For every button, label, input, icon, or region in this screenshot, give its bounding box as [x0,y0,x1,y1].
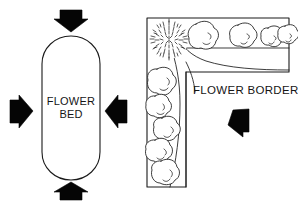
top-row-shrub [188,21,218,49]
flower-bed-label-line2: BED [59,108,82,120]
arrow-right-icon [105,95,127,128]
top-row-shrub [230,23,257,47]
left-column-shrub [147,67,176,95]
flower-bed-label-line1: FLOWER [47,95,95,107]
flower-border-label: FLOWER BORDER [193,84,298,96]
flower-border-panel: FLOWER BORDER [145,18,298,187]
arrow-bottom-icon [54,182,88,200]
arrow-left-icon [10,95,33,128]
left-column-shrub [153,116,180,141]
diagram-canvas: FLOWER BED [0,0,298,205]
left-column-shrub [146,94,172,118]
left-column-shrub [151,159,179,184]
flower-bed-panel: FLOWER BED [10,10,127,200]
arrow-top-icon [54,10,88,32]
garden-diagram-svg: FLOWER BED [0,0,298,205]
top-row-shrub [278,25,298,44]
arrow-border-icon [228,109,249,137]
stippled-corner-shrub [150,19,188,60]
